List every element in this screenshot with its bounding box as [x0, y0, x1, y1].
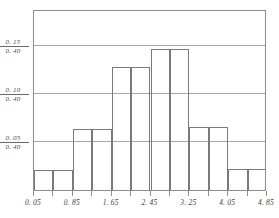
histogram-bar	[151, 49, 170, 190]
histogram-bar	[248, 169, 266, 191]
histogram-bar	[112, 67, 131, 190]
fraction-denominator: 0. 40	[0, 144, 30, 151]
histogram-bar	[92, 129, 111, 190]
y-axis-label-0: 0. 05 0. 40	[0, 135, 30, 151]
x-axis-tick	[111, 191, 112, 196]
y-axis-label-2: 0. 15 0. 40	[0, 39, 30, 55]
histogram-bar	[53, 170, 72, 190]
x-axis-label: 4. 05	[210, 198, 244, 207]
x-axis-label: 0. 05	[16, 198, 50, 207]
x-axis-label: 0. 85	[55, 198, 89, 207]
fraction-numerator: 0. 05	[0, 135, 30, 142]
histogram-bar	[209, 127, 228, 190]
y-axis-label-1: 0. 10 0. 40	[0, 87, 30, 103]
x-axis-tick	[52, 191, 53, 196]
x-axis-label: 2. 45	[133, 198, 167, 207]
histogram-bar	[34, 170, 53, 190]
histogram-bar	[170, 49, 189, 190]
x-axis-tick	[188, 191, 189, 196]
fraction-denominator: 0. 40	[0, 48, 30, 55]
x-axis-label: 3. 25	[171, 198, 205, 207]
fraction-0: 0. 05 0. 40	[0, 135, 30, 151]
x-axis-tick	[227, 191, 228, 196]
x-axis-tick	[247, 191, 248, 196]
fraction-2: 0. 15 0. 40	[0, 39, 30, 55]
histogram-bar	[189, 127, 208, 190]
histogram-bar	[73, 129, 92, 190]
histogram-chart: 0. 05 0. 40 0. 10 0. 40 0. 15 0. 40 0. 0…	[0, 0, 279, 218]
x-axis-tick	[130, 191, 131, 196]
histogram-bar	[131, 67, 150, 190]
x-axis-label: 1. 65	[94, 198, 128, 207]
x-axis-tick	[266, 191, 267, 196]
x-axis-tick	[150, 191, 151, 196]
x-axis-tick	[91, 191, 92, 196]
histogram-bar	[228, 169, 247, 191]
fraction-1: 0. 10 0. 40	[0, 87, 30, 103]
x-axis-label: 4. 85	[249, 198, 279, 207]
bars-layer	[34, 11, 265, 190]
x-axis-tick	[208, 191, 209, 196]
fraction-numerator: 0. 10	[0, 87, 30, 94]
x-axis-tick	[72, 191, 73, 196]
x-axis-tick	[169, 191, 170, 196]
plot-area	[33, 10, 266, 191]
x-axis-tick	[33, 191, 34, 196]
fraction-denominator: 0. 40	[0, 96, 30, 103]
fraction-numerator: 0. 15	[0, 39, 30, 46]
